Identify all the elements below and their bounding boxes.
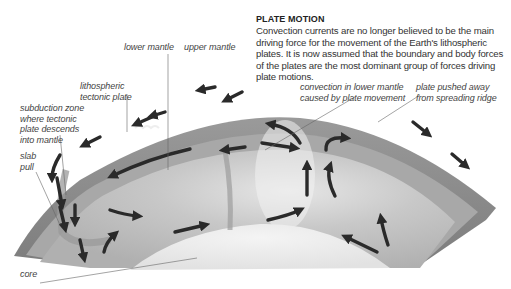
label-lithospheric-plate: lithospheric tectonic plate — [80, 81, 132, 102]
panel-body: Convection currents are no longer believ… — [256, 25, 508, 83]
label-line: pull — [20, 162, 36, 173]
label-lower-mantle: lower mantle — [124, 42, 174, 53]
label-plate-pushed: plate pushed away from spreading ridge — [416, 82, 497, 103]
label-upper-mantle: upper mantle — [184, 42, 235, 53]
label-line: subduction zone — [20, 103, 84, 114]
label-line: tectonic plate — [80, 92, 132, 103]
label-line: slab — [20, 151, 36, 162]
label-line: where tectonic — [20, 114, 84, 125]
plate-motion-panel: PLATE MOTION Convection currents are no … — [256, 14, 508, 83]
label-slab-pull: slab pull — [20, 151, 36, 172]
label-line: from spreading ridge — [416, 93, 497, 104]
label-line: lithospheric — [80, 81, 132, 92]
label-line: convection in lower mantle — [300, 82, 405, 93]
panel-title: PLATE MOTION — [256, 14, 508, 25]
label-line: caused by plate movement — [300, 93, 405, 104]
label-subduction-zone: subduction zone where tectonic plate des… — [20, 103, 84, 145]
label-convection: convection in lower mantle caused by pla… — [300, 82, 405, 103]
label-line: into mantle — [20, 135, 84, 146]
label-line: plate descends — [20, 124, 84, 135]
label-line: plate pushed away — [416, 82, 497, 93]
label-core: core — [20, 269, 37, 280]
